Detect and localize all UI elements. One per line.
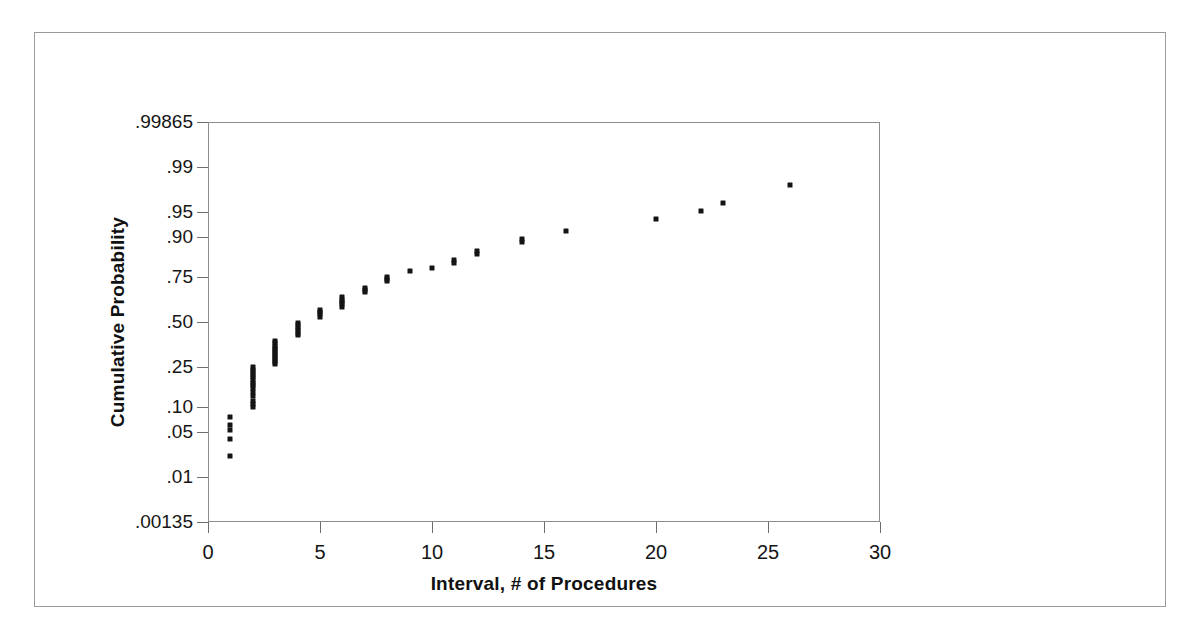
x-tick-label: 5 (314, 541, 325, 564)
x-tick-label: 30 (869, 541, 891, 564)
y-tick-mark (197, 167, 208, 168)
x-tick-mark (880, 522, 881, 533)
y-tick-mark (197, 477, 208, 478)
y-tick-label: .99865 (60, 111, 193, 133)
y-axis-title: Cumulative Probability (107, 217, 129, 427)
x-tick-mark (544, 522, 545, 533)
y-tick-mark (197, 407, 208, 408)
y-tick-mark (197, 522, 208, 523)
y-tick-mark (197, 367, 208, 368)
y-axis: .00135.01.05.10.25.50.75.90.95.99.998650… (0, 0, 1188, 644)
x-axis-title: Interval, # of Procedures (431, 573, 658, 595)
x-tick-label: 15 (533, 541, 555, 564)
y-tick-label: .01 (60, 466, 193, 488)
y-tick-mark (197, 237, 208, 238)
x-tick-label: 20 (645, 541, 667, 564)
x-tick-mark (432, 522, 433, 533)
y-tick-label: .00135 (60, 511, 193, 533)
y-tick-mark (197, 432, 208, 433)
x-tick-label: 10 (421, 541, 443, 564)
y-tick-mark (197, 212, 208, 213)
x-tick-mark (768, 522, 769, 533)
y-tick-mark (197, 277, 208, 278)
x-tick-label: 0 (202, 541, 213, 564)
probability-plot-figure: .00135.01.05.10.25.50.75.90.95.99.998650… (0, 0, 1188, 644)
y-tick-mark (197, 322, 208, 323)
y-tick-mark (197, 122, 208, 123)
x-tick-mark (656, 522, 657, 533)
x-tick-mark (208, 522, 209, 533)
x-tick-mark (320, 522, 321, 533)
y-tick-label: .99 (60, 156, 193, 178)
x-tick-label: 25 (757, 541, 779, 564)
